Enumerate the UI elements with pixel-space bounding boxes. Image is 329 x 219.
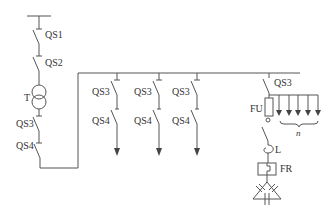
arrow-down-icon bbox=[286, 110, 292, 116]
incoming-busbar bbox=[27, 16, 51, 29]
arrow-down-icon bbox=[156, 148, 162, 156]
switch-qs3-main: QS3 bbox=[16, 116, 42, 143]
capacitor-bank bbox=[253, 175, 281, 205]
label-n: n bbox=[296, 128, 301, 138]
reactor-l bbox=[264, 145, 273, 153]
fuse-fu bbox=[265, 98, 273, 116]
arrow-down-icon bbox=[276, 110, 282, 116]
schematic-diagram: QS1 QS2 T QS3 QS4 bbox=[0, 0, 329, 219]
label-l: L bbox=[275, 144, 281, 155]
label-f1-qs3: QS3 bbox=[92, 86, 110, 97]
label-f2-qs3: QS3 bbox=[134, 86, 152, 97]
label-t: T bbox=[24, 92, 30, 103]
label-f2-qs4: QS4 bbox=[134, 115, 152, 126]
feeder-1: QS3 QS4 bbox=[92, 73, 120, 156]
label-fr: FR bbox=[280, 163, 293, 174]
transformer-t: T bbox=[24, 85, 46, 116]
label-qs1: QS1 bbox=[45, 29, 63, 40]
arrow-down-icon bbox=[194, 148, 200, 156]
arrow-down-icon bbox=[305, 110, 311, 116]
brace bbox=[280, 121, 318, 127]
arrow-down-icon bbox=[315, 110, 321, 116]
tie-line bbox=[40, 73, 78, 168]
feeder-2: QS3 QS4 bbox=[134, 73, 162, 156]
arrow-down-icon bbox=[114, 148, 120, 156]
arrow-down-icon bbox=[295, 110, 301, 116]
label-cap-qs3: QS3 bbox=[274, 77, 292, 88]
label-f3-qs3: QS3 bbox=[172, 86, 190, 97]
output-arrows: n bbox=[276, 95, 321, 138]
switch-qs4-main: QS4 bbox=[16, 140, 42, 168]
feeder-3: QS3 QS4 bbox=[172, 73, 200, 156]
switch-qs2: QS2 bbox=[33, 56, 63, 85]
label-qs2: QS2 bbox=[45, 57, 63, 68]
label-qs4-main: QS4 bbox=[16, 140, 34, 151]
label-f3-qs4: QS4 bbox=[172, 115, 190, 126]
switch-qs1: QS1 bbox=[33, 29, 63, 56]
label-qs3-main: QS3 bbox=[16, 118, 34, 129]
label-fu: FU bbox=[250, 103, 264, 114]
capacitor-branch: QS3 FU L FR bbox=[250, 73, 321, 205]
label-f1-qs4: QS4 bbox=[92, 115, 110, 126]
